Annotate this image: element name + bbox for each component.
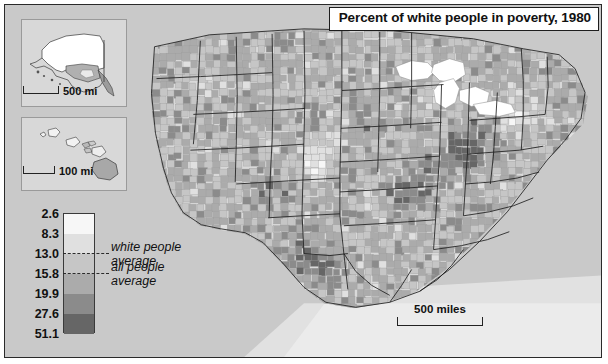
county-cell — [295, 197, 303, 206]
county-cell — [295, 81, 303, 90]
county-cell — [242, 175, 250, 182]
county-cell — [380, 169, 387, 175]
county-cell — [424, 38, 432, 45]
county-cell — [432, 104, 439, 110]
county-cell — [220, 125, 227, 131]
county-cell — [516, 81, 522, 88]
county-cell — [167, 81, 174, 87]
county-cell — [477, 204, 486, 211]
county-cell — [183, 147, 190, 154]
county-cell — [448, 125, 455, 131]
county-cell — [440, 126, 448, 132]
county-cell — [358, 226, 365, 232]
county-cell — [182, 132, 190, 139]
county-cell — [417, 110, 425, 117]
county-cell — [258, 124, 264, 130]
county-cell — [425, 267, 432, 273]
county-cell — [485, 117, 493, 125]
county-cell — [333, 225, 341, 233]
county-cell — [243, 68, 250, 74]
county-cell — [258, 46, 264, 53]
county-cell — [227, 103, 234, 112]
county-cell — [280, 40, 287, 46]
county-cell — [349, 211, 357, 217]
county-cell — [395, 190, 404, 197]
county-cell — [395, 111, 401, 117]
county-cell — [310, 125, 319, 131]
county-cell — [341, 119, 350, 125]
scalebar-line — [23, 86, 59, 94]
county-cell — [371, 226, 378, 232]
county-cell — [303, 260, 309, 269]
county-cell — [431, 168, 438, 174]
county-cell — [182, 125, 189, 132]
county-cell — [204, 175, 212, 182]
county-cell — [334, 60, 342, 67]
county-cell — [417, 89, 425, 96]
county-cell — [243, 197, 251, 205]
county-cell — [394, 212, 402, 218]
county-cell — [371, 182, 378, 189]
county-cell — [227, 189, 235, 197]
county-cell — [167, 54, 176, 62]
county-cell — [282, 160, 291, 167]
county-cell — [348, 139, 357, 146]
legend-value: 27.6 — [35, 308, 59, 321]
county-cell — [319, 268, 326, 276]
county-cell — [348, 68, 355, 74]
county-cell — [386, 74, 394, 80]
county-cell — [190, 169, 197, 175]
county-cell — [388, 226, 395, 232]
county-cell — [409, 261, 416, 269]
county-cell — [388, 154, 396, 162]
county-cell — [159, 139, 166, 147]
county-cell — [441, 161, 448, 168]
county-cell — [507, 146, 516, 153]
county-cell — [401, 261, 410, 267]
county-cell — [356, 76, 362, 83]
county-cell — [448, 196, 456, 202]
county-cell — [348, 282, 357, 289]
county-cell — [363, 182, 370, 188]
county-cell — [417, 125, 425, 131]
county-cell — [318, 204, 326, 213]
county-cell — [386, 189, 394, 196]
county-cell — [235, 160, 241, 168]
county-cell — [273, 212, 281, 218]
county-cell — [333, 247, 341, 254]
county-cell — [471, 67, 478, 76]
county-cell — [296, 211, 305, 219]
county-cell — [462, 47, 471, 54]
county-cell — [319, 46, 326, 53]
county-cell — [554, 60, 561, 66]
county-cell — [410, 46, 417, 53]
county-cell — [462, 189, 471, 197]
county-cell — [295, 104, 302, 111]
county-cell — [493, 82, 499, 89]
county-cell — [174, 139, 182, 146]
county-cell — [319, 60, 326, 67]
county-cell — [348, 233, 355, 240]
county-cell — [455, 182, 463, 188]
county-cell — [166, 103, 173, 110]
county-cell — [272, 97, 281, 103]
county-cell — [492, 54, 501, 62]
county-cell — [349, 104, 358, 111]
county-cell — [425, 189, 432, 196]
county-cell — [417, 147, 426, 154]
county-cell — [561, 74, 568, 80]
white-people-average-line — [63, 253, 109, 254]
county-cell — [296, 46, 305, 52]
county-cell — [303, 112, 310, 118]
county-cell — [372, 268, 381, 275]
county-cell — [214, 181, 221, 190]
county-cell — [272, 88, 280, 96]
county-cell — [258, 212, 267, 219]
county-cell — [327, 196, 335, 202]
county-cell — [433, 110, 439, 117]
county-cell — [326, 82, 333, 89]
county-cell — [410, 247, 418, 254]
county-cell — [334, 203, 343, 210]
county-cell — [265, 233, 271, 240]
county-cell — [280, 197, 288, 203]
